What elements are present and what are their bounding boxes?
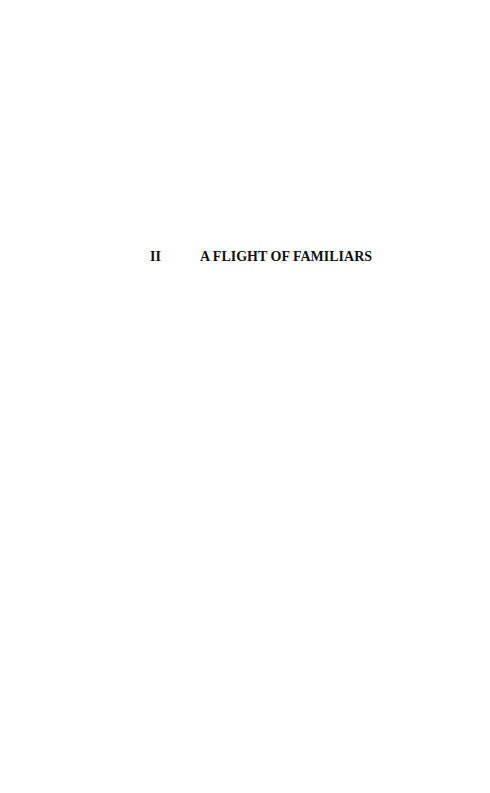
chapter-number: II (150, 249, 161, 265)
chapter-title: A FLIGHT OF FAMILIARS (200, 249, 372, 265)
document-page: II A FLIGHT OF FAMILIARS (0, 0, 490, 793)
